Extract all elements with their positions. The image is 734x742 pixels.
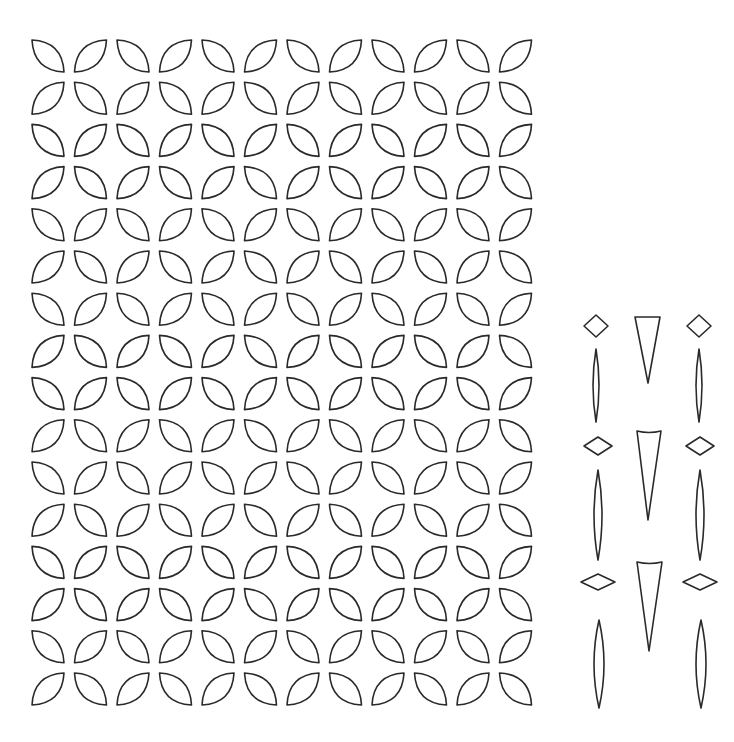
pattern-canvas — [0, 0, 734, 742]
background — [0, 0, 734, 742]
